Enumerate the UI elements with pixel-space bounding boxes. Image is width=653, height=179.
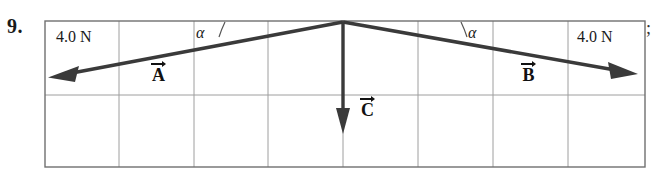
vector-arrow-overbar-c [360, 95, 375, 102]
vector-letter-a: A [151, 66, 166, 84]
vector-c-arrow [336, 22, 350, 134]
vector-label-c: C [360, 95, 375, 119]
vector-diagram-svg [0, 0, 653, 179]
angle-arc-right [461, 22, 467, 37]
force-magnitude-right: 4.0 N [577, 28, 613, 46]
angle-label-right: α [468, 24, 476, 42]
grid-border [45, 21, 645, 167]
vector-letter-b: B [521, 66, 536, 84]
force-magnitude-left: 4.0 N [56, 28, 92, 46]
vector-letter-c: C [360, 101, 375, 119]
vector-arrow-overbar-b [521, 60, 536, 67]
vector-label-a: A [151, 60, 166, 84]
angle-label-left: α [196, 24, 204, 42]
grid-lines [45, 21, 645, 167]
vector-arrow-overbar-a [151, 60, 166, 67]
figure-page: 9. 4.0 [0, 0, 653, 179]
vector-label-b: B [521, 60, 536, 84]
angle-arc-left [219, 22, 225, 37]
trailing-punctuation: ; [646, 18, 651, 39]
